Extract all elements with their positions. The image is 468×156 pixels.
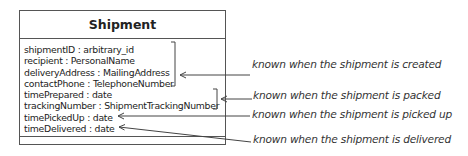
annotation-created: known when the shipment is created — [252, 58, 441, 70]
annotation-picked-up: known when the shipment is picked up — [252, 108, 452, 120]
bracket-packed — [213, 89, 217, 109]
annotation-packed: known when the shipment is packed — [253, 89, 440, 101]
arrow-delivered-line — [119, 127, 251, 142]
annotation-delivered: known when the shipment is delivered — [253, 133, 451, 145]
bracket-created — [171, 42, 175, 86]
